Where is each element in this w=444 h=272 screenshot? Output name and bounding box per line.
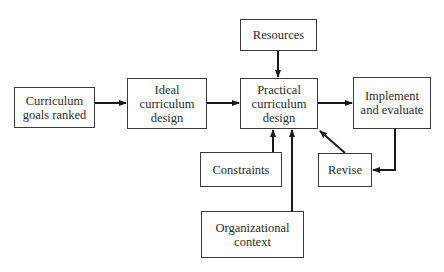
node-ideal-curriculum-design: Ideal curriculum design: [127, 78, 207, 129]
node-resources: Resources: [240, 19, 317, 51]
node-label: Organizational context: [215, 221, 289, 249]
edge-revise-to-practical: [320, 131, 345, 153]
node-label: Resources: [253, 28, 304, 42]
node-revise: Revise: [318, 153, 372, 187]
node-label: Curriculum goals ranked: [23, 94, 87, 122]
node-curriculum-goals-ranked: Curriculum goals ranked: [14, 87, 95, 128]
node-label: Revise: [328, 163, 362, 177]
node-organizational-context: Organizational context: [201, 211, 304, 258]
node-practical-curriculum-design: Practical curriculum design: [240, 78, 318, 129]
node-implement-and-evaluate: Implement and evaluate: [353, 77, 431, 129]
node-label: Implement and evaluate: [361, 89, 424, 117]
node-label: Practical curriculum design: [252, 83, 307, 125]
node-label: Ideal curriculum design: [140, 83, 195, 125]
edge-implement-to-revise: [373, 129, 395, 170]
node-label: Constraints: [213, 163, 270, 177]
node-constraints: Constraints: [200, 152, 282, 187]
